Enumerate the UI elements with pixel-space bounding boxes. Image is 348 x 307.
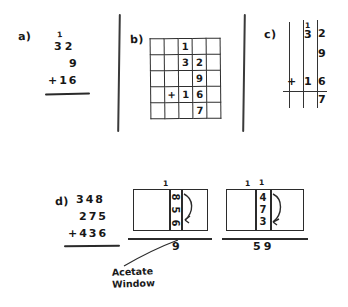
window-right-carry-left: 1 [245, 180, 251, 188]
section-a-answer-rule [45, 93, 90, 95]
table-row: 7 [151, 102, 221, 119]
window-right-digit-column: 4 7 3 [256, 193, 270, 227]
grid-cell [150, 55, 164, 71]
acetate-window-caption: Acetate Window [112, 265, 155, 290]
section-d-answer-rule [64, 245, 120, 247]
grid-cell: 6 [193, 86, 207, 102]
section-d-addend-3: +436 [68, 228, 108, 239]
window-left-digit: 5 [171, 207, 181, 214]
grid-cell [207, 102, 221, 118]
section-c-vline-1 [289, 22, 290, 108]
window-right-carry-right: 1 [259, 179, 265, 187]
window-right-arrow-icon [270, 192, 290, 228]
window-right-result: 59 [253, 241, 274, 252]
window-left-carry: 1 [163, 180, 169, 188]
grid-cell [164, 39, 178, 55]
grid-cell [192, 38, 206, 54]
section-b-grid: 1 3 2 9 [150, 38, 222, 120]
section-a-addend-2: 9 [69, 58, 77, 69]
section-a-label: a) [18, 30, 32, 44]
grid-cell: 3 [178, 54, 192, 70]
section-a-addend-3: +16 [48, 75, 79, 86]
grid-cell: 7 [193, 102, 207, 118]
grid-cell: 9 [192, 70, 206, 86]
window-left-digit-column: 8 5 6 [170, 192, 181, 228]
window-right-digit: 7 [260, 205, 267, 215]
section-a-addend-1: 32 [54, 41, 75, 52]
grid-cell [207, 86, 221, 102]
section-c-ones: 2 [318, 28, 326, 39]
grid-cell [150, 71, 164, 87]
section-d-addend-2: 275 [79, 211, 108, 222]
grid-cell [165, 103, 179, 119]
grid-cell: 1 [179, 86, 193, 102]
table-row: 3 2 [150, 54, 220, 71]
divider-right [242, 14, 245, 132]
grid-cell [150, 39, 164, 55]
section-c-plus-sign: + [287, 76, 297, 87]
window-left-digit: 8 [171, 194, 181, 201]
grid-cell [164, 55, 178, 71]
grid-cell [179, 102, 193, 118]
section-c-answer: 7 [318, 94, 326, 105]
grid-cell [164, 71, 178, 87]
acetate-window-caption-line-2: Window [112, 277, 155, 290]
grid-cell: 2 [192, 54, 206, 70]
window-right-digit: 4 [260, 193, 267, 203]
table-row: 1 [150, 38, 220, 55]
grid-cell: 1 [178, 38, 192, 54]
section-d-addend-1: 348 [76, 194, 105, 205]
grid-cell [206, 38, 220, 54]
section-c-label: c) [264, 28, 277, 42]
grid-cell: + [165, 87, 179, 103]
window-right-digit: 3 [260, 217, 267, 227]
section-b-label: b) [130, 33, 145, 47]
grid-cell [206, 70, 220, 86]
section-c-second-addend: 9 [318, 48, 326, 59]
window-left-arrow-icon [181, 192, 201, 228]
grid-cell [151, 103, 165, 119]
worksheet-canvas: a) 1 32 9 +16 b) 1 3 [0, 0, 348, 307]
section-c-tens: 3 [304, 29, 312, 40]
table-row: + 1 6 [151, 86, 221, 103]
section-c-third-tens: 1 [304, 76, 312, 87]
divider-left [117, 14, 120, 132]
section-c-third-ones: 6 [318, 76, 326, 87]
window-left-digit: 6 [171, 220, 181, 227]
grid-cell [151, 87, 165, 103]
section-a-carry-digit: 1 [57, 31, 63, 39]
section-d-label: d) [55, 195, 70, 209]
table-row: 9 [150, 70, 220, 87]
grid-cell [206, 54, 220, 70]
grid-cell [178, 70, 192, 86]
